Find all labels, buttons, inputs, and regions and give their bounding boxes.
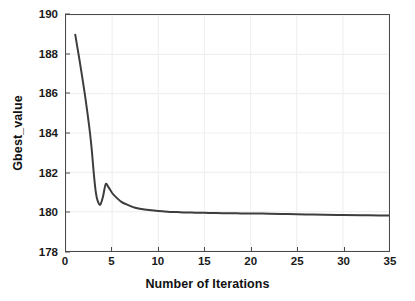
x-axis-tick-label: 10 (138, 255, 178, 267)
y-axis-tick-mark (65, 53, 70, 54)
y-axis-tick-mark (65, 172, 70, 173)
x-axis-tick-label: 5 (91, 255, 131, 267)
y-axis-tick-mark (65, 133, 70, 134)
x-axis-tick-mark (158, 247, 159, 252)
plot-area (65, 14, 390, 252)
y-axis-tick-label: 188 (0, 48, 58, 60)
x-axis-tick-mark (204, 247, 205, 252)
y-axis-tick-mark (65, 212, 70, 213)
chart-figure: Gbest_value 178180182184186188190 051015… (0, 0, 415, 301)
x-axis-tick-label: 0 (45, 255, 85, 267)
x-axis-tick-mark (344, 247, 345, 252)
x-axis-tick-label: 20 (231, 255, 271, 267)
y-axis-tick-label: 180 (0, 206, 58, 218)
data-series-line (66, 15, 389, 251)
y-axis-tick-label: 190 (0, 8, 58, 20)
y-axis-tick-mark (65, 14, 70, 15)
y-axis-tick-mark (65, 93, 70, 94)
x-axis-tick-mark (251, 247, 252, 252)
x-axis-tick-label: 25 (277, 255, 317, 267)
x-axis-tick-mark (297, 247, 298, 252)
y-axis-tick-label: 182 (0, 167, 58, 179)
y-axis-tick-label: 184 (0, 127, 58, 139)
x-axis-tick-label: 30 (324, 255, 364, 267)
x-axis-title: Number of Iterations (0, 277, 415, 291)
y-axis-tick-label: 186 (0, 87, 58, 99)
x-axis-tick-mark (111, 247, 112, 252)
y-axis-tick-mark (65, 252, 70, 253)
x-axis-tick-label: 35 (370, 255, 410, 267)
x-axis-tick-label: 15 (184, 255, 224, 267)
